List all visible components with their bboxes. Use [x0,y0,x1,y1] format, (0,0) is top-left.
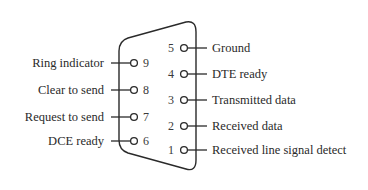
right-pin-leads [181,45,207,154]
pin-8-number: 8 [143,83,149,97]
left-pin-leads [111,60,137,145]
pin-5-label: Ground [212,41,250,55]
pin-6-label: DCE ready [48,134,104,148]
pin-8-label: Clear to send [38,83,104,97]
pin-1-number: 1 [168,143,174,157]
pin-4-number: 4 [168,67,174,81]
pin-7-label: Request to send [25,110,104,124]
pinout-diagram: Ring indicator 9 Clear to send 8 Request… [0,0,368,190]
pin-3-number: 3 [168,93,174,107]
pin-3-label: Transmitted data [212,93,296,107]
pin-9-number: 9 [143,56,149,70]
pin-5-number: 5 [168,41,174,55]
pin-2-number: 2 [168,119,174,133]
pin-4-label: DTE ready [212,67,267,81]
pin-6-number: 6 [143,134,149,148]
pin-2-label: Received data [212,119,282,133]
pin-7-number: 7 [143,110,149,124]
pin-1-label: Received line signal detect [212,143,346,157]
pin-9-label: Ring indicator [32,56,104,70]
